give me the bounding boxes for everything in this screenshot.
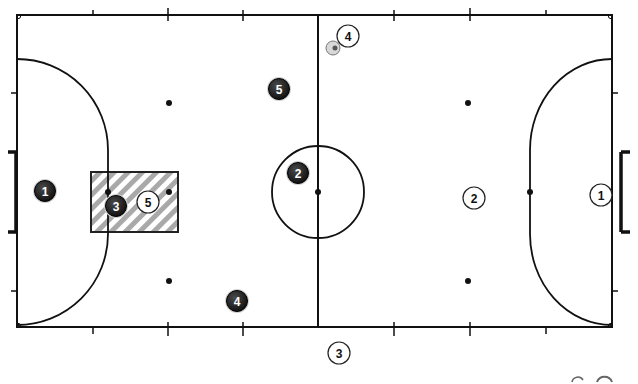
light-player-5[interactable]: 5 <box>137 191 159 213</box>
light-player-3[interactable]: 3 <box>328 342 350 364</box>
dark-player-3[interactable]: 3 <box>104 194 128 218</box>
player-number: 1 <box>598 189 605 203</box>
player-number: 3 <box>336 347 343 361</box>
player-number: 3 <box>113 200 120 214</box>
hatched-zone <box>91 172 178 232</box>
player-number: 4 <box>345 30 352 44</box>
dark-player-4[interactable]: 4 <box>225 289 249 313</box>
dark-player-1[interactable]: 1 <box>33 179 57 203</box>
player-number: 5 <box>276 83 283 97</box>
partial-icons <box>572 377 612 382</box>
futsal-court: 12345 12345 <box>0 0 638 384</box>
player-number: 2 <box>471 192 478 206</box>
right-goal <box>621 152 630 232</box>
player-number: 5 <box>145 196 152 210</box>
light-player-4[interactable]: 4 <box>337 25 359 47</box>
light-team: 12345 <box>137 25 612 364</box>
player-number: 1 <box>42 185 49 199</box>
dark-player-5[interactable]: 5 <box>267 77 291 101</box>
left-goal <box>8 152 16 232</box>
light-player-2[interactable]: 2 <box>463 187 485 209</box>
ball-icon[interactable] <box>326 41 340 55</box>
center-spot <box>315 189 321 195</box>
light-player-1[interactable]: 1 <box>590 184 612 206</box>
player-number: 4 <box>234 295 241 309</box>
dark-player-2[interactable]: 2 <box>286 161 310 185</box>
player-number: 2 <box>295 167 302 181</box>
